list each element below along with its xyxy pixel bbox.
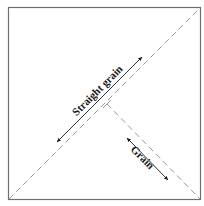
grain-diagram: Straight grain Grain	[0, 0, 204, 206]
straight-grain-label: Straight grain	[69, 62, 124, 117]
half-diagonal-dashed-line	[107, 104, 200, 199]
grain-label: Grain	[129, 143, 157, 171]
straight-grain-arrow	[57, 57, 142, 142]
